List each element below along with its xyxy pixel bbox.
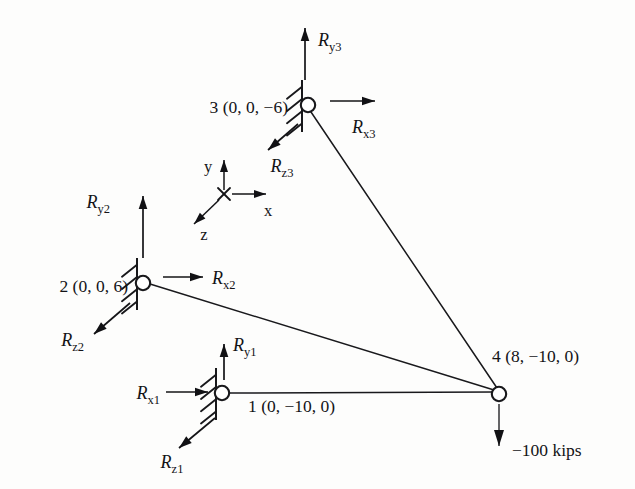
reaction-Ry3: Ry3 (301, 28, 342, 80)
support-3-tick (287, 99, 302, 111)
reaction-Rx3-head (362, 97, 375, 106)
reaction-Rx1-label: Rx1 (136, 383, 161, 407)
node-1-joint (215, 386, 229, 400)
reaction-Rx3-label: Rx3 (351, 117, 376, 141)
support-3-tick (287, 87, 302, 99)
load-node-4-label: −100 kips (512, 440, 582, 460)
node-3-label: 3 (0, 0, −6) (210, 97, 289, 117)
coordinate-axes: yxz (194, 157, 273, 244)
labels-layer: 1 (0, −10, 0)2 (0, 0, 6)3 (0, 0, −6)4 (8… (59, 97, 579, 416)
supports-layer (122, 80, 302, 423)
applied-load-layer: −100 kips (494, 404, 582, 460)
reaction-Rz2: Rz2 (60, 303, 130, 354)
space-truss-figure: Ry1Rx1Rz1Ry2Rx2Rz2Ry3Rx3Rz3 −100 kips yx… (0, 0, 635, 489)
joints-layer (136, 98, 506, 401)
node-4-joint (492, 387, 506, 401)
reaction-Ry2-head (139, 196, 148, 209)
axis-x-head (254, 190, 266, 198)
support-3-tick (287, 111, 302, 123)
reaction-Rz1: Rz1 (160, 418, 215, 476)
node-4-label: 4 (8, −10, 0) (492, 346, 579, 366)
reaction-Ry3-head (301, 28, 310, 41)
support-1 (201, 368, 216, 423)
reaction-Rz1-label: Rz1 (160, 452, 184, 476)
member-1-4 (228, 392, 494, 393)
support-1-tick (201, 411, 216, 423)
reaction-Rz2-label: Rz2 (60, 330, 84, 354)
reaction-Rz3: Rz3 (268, 124, 298, 180)
reaction-Ry2: Ry2 (86, 192, 148, 258)
member-2-4 (150, 284, 494, 390)
reaction-Ry2-label: Ry2 (86, 192, 111, 216)
support-1-tick (201, 399, 216, 411)
reaction-Rz3-label: Rz3 (270, 156, 294, 180)
axis-z-label: z (200, 225, 207, 244)
reaction-Rx3: Rx3 (330, 97, 376, 141)
axis-y-label: y (204, 157, 213, 176)
node-2-joint (136, 276, 150, 290)
reaction-Rx1: Rx1 (136, 383, 209, 407)
node-3-joint (301, 98, 315, 112)
coordinate-axes-layer: yxz (194, 157, 273, 244)
axis-x-label: x (264, 201, 273, 220)
support-3-tick (287, 123, 302, 135)
reaction-Ry1-label: Ry1 (232, 335, 257, 359)
support-2-tick (122, 265, 137, 277)
axis-y-head (220, 160, 228, 172)
support-1-tick (201, 375, 216, 387)
reaction-Ry3-label: Ry3 (317, 30, 342, 54)
load-node-4-head (494, 430, 504, 446)
reaction-Rx2-head (190, 273, 203, 282)
reaction-Ry1: Ry1 (220, 335, 257, 380)
node-2-label: 2 (0, 0, 6) (59, 276, 128, 296)
load-node-4: −100 kips (494, 404, 582, 460)
node-1-label: 1 (0, −10, 0) (248, 396, 335, 416)
member-3-4 (311, 112, 497, 388)
truss-members-layer (150, 112, 497, 393)
truss-diagram-canvas: Ry1Rx1Rz1Ry2Rx2Rz2Ry3Rx3Rz3 −100 kips yx… (0, 0, 635, 489)
reaction-Rx2: Rx2 (163, 268, 236, 292)
reaction-Ry1-head (220, 344, 229, 357)
reaction-Rx2-label: Rx2 (211, 268, 236, 292)
